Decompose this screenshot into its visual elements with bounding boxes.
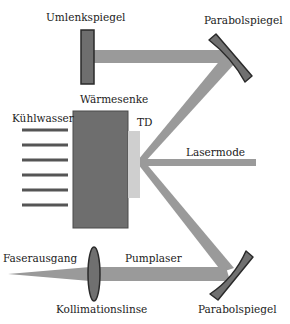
beam-fiber-taper: [8, 267, 90, 281]
label-lasermode: Lasermode: [186, 146, 245, 158]
label-waermesenke: Wärmesenke: [80, 93, 148, 105]
td-disk: [128, 131, 140, 198]
label-umlenkspiegel: Umlenkspiegel: [46, 11, 126, 23]
beam-pumplaser: [98, 267, 230, 281]
label-kollimationslinse: Kollimationslinse: [56, 303, 147, 315]
kollimationslinse-lens: [88, 247, 100, 301]
umlenkspiegel-mirror: [81, 30, 94, 84]
label-kuehlwasser: Kühlwasser: [12, 112, 75, 124]
label-parabolspiegel-top: Parabolspiegel: [204, 14, 283, 26]
label-parabolspiegel-bottom: Parabolspiegel: [198, 303, 277, 315]
laser-setup-diagram: Umlenkspiegel Parabolspiegel Wärmesenke …: [0, 0, 290, 324]
beam-top-horizontal: [94, 50, 232, 63]
label-pumplaser: Pumplaser: [125, 252, 183, 264]
kuehlwasser-lines: [22, 130, 68, 205]
waermesenke-block: [73, 111, 128, 228]
label-faserausgang: Faserausgang: [3, 252, 78, 264]
label-td: TD: [137, 116, 152, 128]
beam-lasermode: [140, 159, 256, 166]
